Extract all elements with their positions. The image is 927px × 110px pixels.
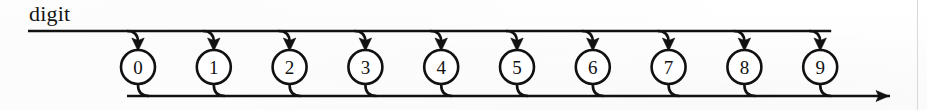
page-edge-rule xyxy=(917,0,918,110)
railroad-diagram-canvas: 0123456789 xyxy=(0,0,927,110)
terminal-node-label: 2 xyxy=(285,57,295,78)
terminal-node-label: 3 xyxy=(361,57,371,78)
terminal-node-label: 4 xyxy=(436,57,446,78)
terminal-node-label: 9 xyxy=(815,57,825,78)
terminal-node-label: 8 xyxy=(740,57,750,78)
terminal-node-label: 7 xyxy=(664,57,674,78)
terminal-node-label: 1 xyxy=(209,57,219,78)
terminal-node-label: 6 xyxy=(588,57,598,78)
terminal-node-label: 0 xyxy=(133,57,143,78)
rule-name-label: digit xyxy=(29,2,70,26)
syntax-diagram-figure: 0123456789 digit xyxy=(0,0,927,110)
terminal-node-label: 5 xyxy=(512,57,522,78)
